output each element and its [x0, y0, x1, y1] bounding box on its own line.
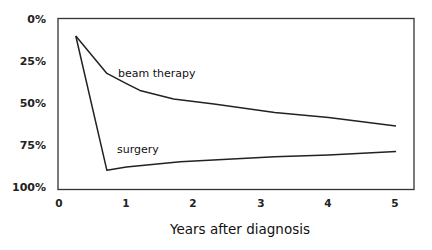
x-tick-label: 0 [49, 197, 69, 209]
x-tick-label: 1 [116, 197, 136, 209]
y-tick-label: 75% [0, 140, 46, 152]
y-tick-label: 50% [0, 98, 46, 110]
beam-therapy-line [76, 36, 396, 126]
y-tick-label: 100% [0, 182, 46, 194]
x-axis-title: Years after diagnosis [0, 221, 432, 237]
y-tick-label: 25% [0, 56, 46, 68]
line-chart [0, 0, 432, 250]
x-tick-label: 3 [251, 197, 271, 209]
surgery-label: surgery [117, 144, 159, 156]
x-tick-label: 5 [385, 197, 405, 209]
x-tick-label: 4 [318, 197, 338, 209]
beam-therapy-label: beam therapy [118, 68, 196, 80]
plot-frame [58, 19, 414, 190]
y-tick-label: 0% [0, 14, 46, 26]
x-tick-label: 2 [183, 197, 203, 209]
